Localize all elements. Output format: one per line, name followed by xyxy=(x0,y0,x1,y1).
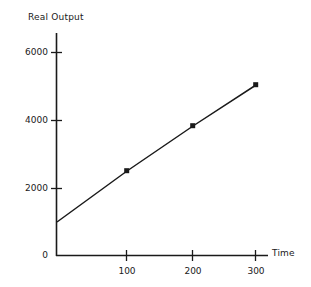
data-point-marker xyxy=(253,82,258,87)
y-tick-label-6000: 6000 xyxy=(8,47,48,57)
x-tick-label-300: 300 xyxy=(236,266,276,276)
plot-area xyxy=(0,0,311,287)
x-axis-title: Time xyxy=(272,248,295,258)
x-tick-label-100: 100 xyxy=(107,266,147,276)
data-point-marker xyxy=(124,168,129,173)
y-tick-label-2000: 2000 xyxy=(8,183,48,193)
x-tick-label-200: 200 xyxy=(173,266,213,276)
y-tick-label-0: 0 xyxy=(8,250,48,260)
data-point-marker xyxy=(190,123,195,128)
chart-container: Real Output 6000 4000 2000 0 100 200 300… xyxy=(0,0,311,287)
data-line-real-output xyxy=(57,85,256,222)
y-tick-label-4000: 4000 xyxy=(8,115,48,125)
